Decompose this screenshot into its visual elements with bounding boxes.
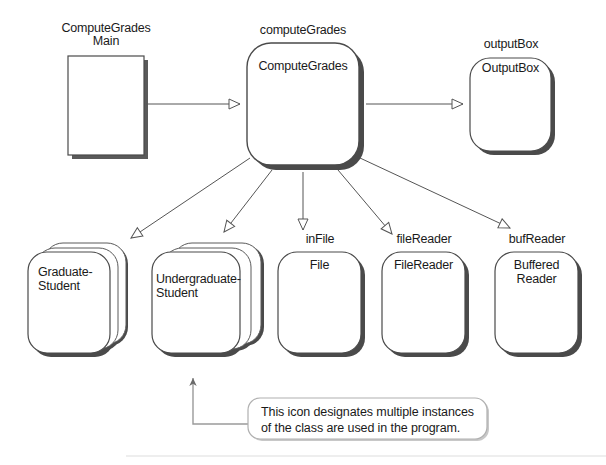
edge-computegrades-to-bufreader bbox=[360, 158, 510, 228]
label-outputbox: outputBox bbox=[466, 38, 556, 51]
inner-text-filereader: FileReader bbox=[382, 258, 465, 272]
label-computegradesmain: ComputeGrades Main bbox=[56, 22, 156, 48]
inner-text-bufreader: Buffered Reader bbox=[495, 258, 578, 286]
note-line-1: This icon designates multiple instances bbox=[261, 404, 485, 420]
label-filereader: fileReader bbox=[384, 233, 464, 246]
note-leader-line bbox=[193, 378, 248, 424]
inner-text-infile: File bbox=[278, 258, 361, 272]
node-graduatestudent[interactable] bbox=[28, 243, 126, 353]
label-infile: inFile bbox=[288, 233, 352, 246]
object-diagram-canvas: ComputeGrades Main computeGrades Compute… bbox=[0, 0, 606, 465]
edge-computegrades-to-filereader bbox=[338, 170, 392, 234]
label-computegrades: computeGrades bbox=[251, 24, 355, 37]
label-bufreader: bufReader bbox=[497, 233, 577, 246]
inner-text-outputbox: OutputBox bbox=[470, 61, 551, 75]
edge-computegrades-to-undergraduatestudent bbox=[224, 170, 272, 232]
inner-text-graduatestudent: Graduate- Student bbox=[38, 265, 116, 293]
note-line-2: of the class are used in the program. bbox=[261, 420, 485, 436]
inner-text-undergraduatestudent: Undergraduate- Student bbox=[156, 272, 252, 300]
node-computegradesmain[interactable] bbox=[68, 56, 144, 155]
note-content: This icon designates multiple instances … bbox=[261, 404, 485, 436]
edge-computegrades-to-graduatestudent bbox=[131, 158, 250, 238]
inner-text-computegrades: ComputeGrades bbox=[247, 59, 359, 73]
